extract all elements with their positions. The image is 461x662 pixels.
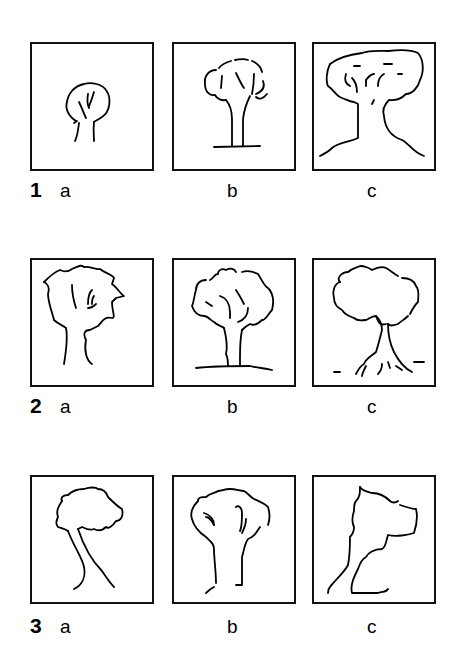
row-number-2: 2	[30, 395, 42, 416]
row-number-1: 1	[30, 179, 42, 200]
panel-label-2c: c	[367, 397, 377, 416]
panel-1b	[172, 42, 296, 171]
panel-label-1c: c	[367, 181, 377, 200]
cloud-crown-tree-with-ground-drawing-icon	[174, 260, 294, 385]
row-number-3: 3	[30, 615, 42, 636]
panel-3b	[172, 475, 296, 604]
panel-label-3b: b	[227, 617, 238, 636]
panel-label-1a: a	[60, 181, 71, 200]
panel-label-3c: c	[367, 617, 377, 636]
panel-label-3a: a	[60, 617, 71, 636]
panel-label-2a: a	[60, 397, 71, 416]
open-trunk-tree-drawing-icon	[174, 477, 294, 602]
leaning-tree-drawing-icon	[32, 477, 152, 602]
angular-tree-outline-drawing-icon	[314, 477, 434, 602]
dashed-crown-tree-with-ground-drawing-icon	[174, 44, 294, 169]
panel-label-1b: b	[227, 181, 238, 200]
panel-3c	[312, 475, 436, 604]
panel-1c	[312, 42, 436, 171]
panel-2a	[30, 258, 154, 387]
panel-2c	[312, 258, 436, 387]
panel-3a	[30, 475, 154, 604]
small-round-tree-drawing-icon	[32, 44, 152, 169]
cloud-crown-tree-with-roots-drawing-icon	[314, 260, 434, 385]
panel-1a	[30, 42, 154, 171]
jagged-crown-tree-drawing-icon	[32, 260, 152, 385]
large-mushroom-tree-drawing-icon	[314, 44, 434, 169]
panel-label-2b: b	[227, 397, 238, 416]
panel-2b	[172, 258, 296, 387]
